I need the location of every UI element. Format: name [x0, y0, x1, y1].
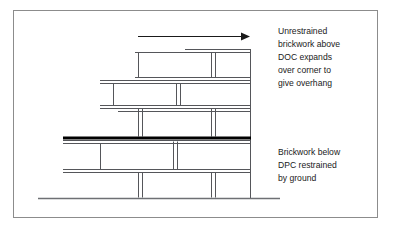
- note-line: Brickwork below: [278, 147, 341, 157]
- brickwork-diagram-figure: Unrestrained brickwork above DOC expands…: [0, 0, 396, 231]
- note-line: over corner to: [278, 65, 331, 75]
- note-line: brickwork above: [278, 39, 340, 49]
- note-line: by ground: [278, 173, 316, 183]
- dpc-line-group: [63, 138, 251, 141]
- note-line: Unrestrained: [278, 26, 327, 36]
- note-line: give overhang: [278, 78, 332, 88]
- note-line: DOC expands: [278, 52, 332, 62]
- diagram-canvas: Unrestrained brickwork above DOC expands…: [0, 0, 396, 231]
- note-line: DPC restrained: [278, 160, 337, 170]
